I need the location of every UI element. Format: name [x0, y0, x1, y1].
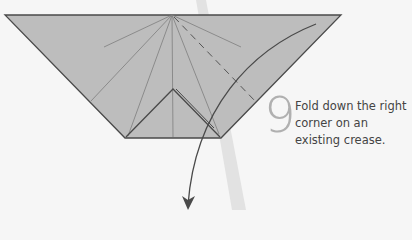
step-instruction: 9 Fold down the right corner on an exist… — [264, 96, 412, 156]
step-text: Fold down the right corner on an existin… — [295, 98, 412, 149]
step-number: 9 — [264, 90, 296, 140]
